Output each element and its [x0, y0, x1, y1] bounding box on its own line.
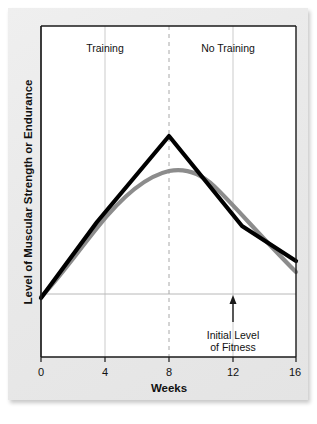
figure-root: 0 4 8 12 16 Weeks Level of Muscular Stre…: [0, 0, 317, 424]
xtick-label-4: 4: [102, 366, 108, 378]
x-axis-title: Weeks: [151, 382, 187, 394]
training-section-label: Training: [86, 42, 124, 54]
strength-endurance-line-chart: 0 4 8 12 16 Weeks Level of Muscular Stre…: [0, 0, 317, 424]
annotation-line-2: of Fitness: [210, 341, 256, 353]
xtick-label-12: 12: [227, 366, 239, 378]
xtick-label-0: 0: [38, 366, 44, 378]
xtick-label-16: 16: [289, 366, 301, 378]
xtick-label-8: 8: [166, 366, 172, 378]
y-axis-title: Level of Muscular Strength or Endurance: [22, 80, 34, 305]
annotation-line-1: Initial Level: [207, 329, 260, 341]
no-training-section-label: No Training: [201, 42, 255, 54]
